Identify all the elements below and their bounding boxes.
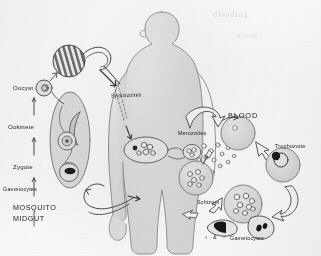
label-merozoites: Merozoites bbox=[178, 130, 206, 136]
label-oocyst: Oocyst bbox=[13, 84, 33, 91]
label-ookinete: Ookinete bbox=[8, 123, 34, 130]
label-gametocytes-blood: Gametocytes bbox=[230, 235, 264, 241]
label-zygote: Zygote bbox=[13, 163, 33, 170]
label-schizont: Schizont bbox=[197, 199, 219, 205]
label-gametocytes-mosquito: Gametocytes bbox=[3, 186, 37, 192]
male-symbol: ♂ bbox=[222, 234, 226, 240]
mosquito-midgut-oval bbox=[50, 92, 90, 188]
diagram-artwork bbox=[0, 0, 321, 256]
ampersand-symbol: & bbox=[213, 234, 217, 240]
malaria-life-cycle-figure: gnibeelb doolb bbox=[0, 0, 321, 256]
label-sporozoites: Sporozoites bbox=[111, 91, 142, 98]
female-symbol: ♀ bbox=[204, 234, 208, 240]
label-mosquito-line1: MOSQUITO bbox=[13, 203, 56, 212]
label-blood: BLOOD bbox=[228, 111, 258, 120]
label-trophozoite: Trophozoite bbox=[275, 143, 305, 149]
label-mosquito-line2: MIDGUT bbox=[13, 214, 45, 223]
